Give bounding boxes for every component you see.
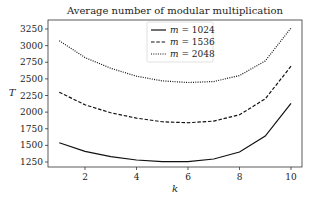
y-tick-label: 3000 [20,41,43,51]
series-line-solid [59,103,291,161]
line-chart: Average number of modular multiplication… [0,0,313,204]
x-tick-label: 10 [285,172,297,182]
x-tick-label: 6 [185,172,191,182]
svg-text:m = 1536: m = 1536 [170,37,215,47]
svg-text:m = 2048: m = 2048 [170,49,215,59]
x-axis-label: k [172,183,178,194]
x-tick-label: 8 [237,172,243,182]
y-tick-label: 2000 [20,107,43,117]
x-tick-label: 2 [82,172,88,182]
svg-text:m = 1024: m = 1024 [170,25,215,35]
series-line-dashed [59,66,291,123]
y-tick-label: 2750 [20,57,43,67]
y-tick-label: 2500 [20,74,43,84]
y-tick-label: 1500 [20,140,43,150]
y-tick-label: 2250 [20,91,43,101]
y-tick-label: 3250 [20,24,43,34]
x-tick-label: 4 [134,172,140,182]
chart-title: Average number of modular multiplication [66,5,284,16]
y-axis-label: T [9,87,17,98]
y-tick-label: 1750 [20,124,43,134]
legend: m = 1024 m = 1536 m = 2048 [147,22,215,62]
y-tick-label: 1250 [20,157,43,167]
x-axis: 246810 [82,167,297,182]
y-axis: 125015001750200022502500275030003250 [20,24,48,167]
